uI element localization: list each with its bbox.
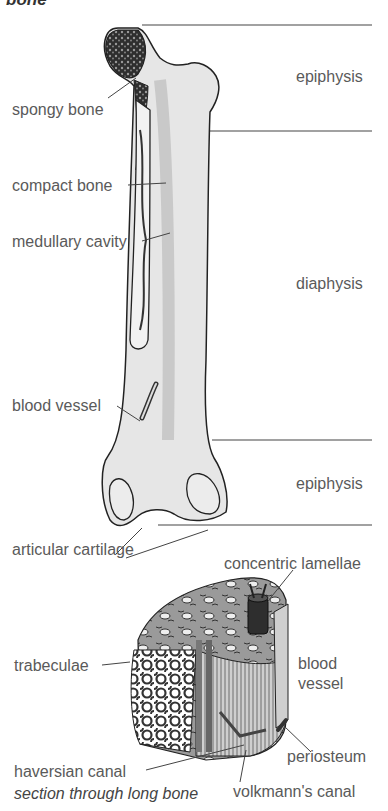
bone-diagram: bone [0,0,388,811]
region-label-diaphysis: diaphysis [296,276,363,292]
label-blood-vessel: blood vessel [12,398,101,414]
label-trabeculae: trabeculae [14,658,89,674]
label-blood-vessel-section-2: vessel [298,676,343,692]
label-medullary-cavity: medullary cavity [12,234,127,250]
label-concentric-lamellae: concentric lamellae [224,556,361,572]
label-volkmanns-canal: volkmann's canal [233,784,355,800]
diagram-caption: section through long bone [14,785,198,803]
label-articular-cartilage: articular cartilage [12,542,134,558]
label-compact-bone: compact bone [12,178,113,194]
label-periosteum: periosteum [287,749,366,765]
region-label-epiphysis-top: epiphysis [296,69,363,85]
femoral-head-spongy [106,30,146,78]
label-spongy-bone: spongy bone [12,102,104,118]
bone-section-block [131,578,288,760]
label-blood-vessel-section-1: blood [298,656,337,672]
label-haversian-canal: haversian canal [14,764,126,780]
region-label-epiphysis-bottom: epiphysis [296,476,363,492]
